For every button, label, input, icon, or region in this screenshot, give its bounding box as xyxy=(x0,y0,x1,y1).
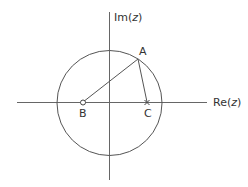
segment-BA xyxy=(83,59,138,102)
point-C-label: C xyxy=(144,107,152,120)
real-axis-label: Re(z) xyxy=(213,96,241,109)
point-A-label: A xyxy=(139,45,147,58)
complex-plane-diagram: Im(z) Re(z) A B C xyxy=(0,0,248,187)
point-B-label: B xyxy=(79,107,87,120)
point-B-marker xyxy=(81,100,86,105)
imaginary-axis-label: Im(z) xyxy=(114,11,142,24)
